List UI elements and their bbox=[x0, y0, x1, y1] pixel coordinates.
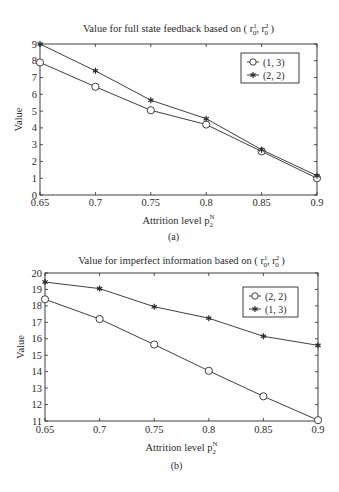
legend-entry: (2, 2) bbox=[263, 70, 285, 82]
legend-entry: (1, 3) bbox=[263, 57, 285, 69]
x-axis-label: Attrition level pN2 bbox=[142, 213, 214, 229]
x-tick-label: 0.75 bbox=[145, 424, 163, 435]
y-tick-label: 7 bbox=[32, 72, 37, 83]
circle-marker-icon bbox=[147, 107, 154, 114]
y-tick-label: 19 bbox=[32, 284, 43, 295]
legend-entry: (1, 3) bbox=[265, 304, 287, 316]
y-tick-label: 3 bbox=[32, 139, 37, 150]
x-tick-label: 0.85 bbox=[252, 197, 270, 208]
circle-marker-icon bbox=[314, 417, 321, 424]
panel-label: (a) bbox=[168, 231, 179, 243]
star-marker-icon bbox=[148, 97, 153, 103]
y-tick-label: 16 bbox=[32, 333, 43, 344]
circle-marker-icon bbox=[36, 59, 43, 66]
y-tick-label: 11 bbox=[32, 416, 42, 427]
legend: (1, 3)(2, 2) bbox=[241, 53, 299, 83]
y-tick-label: 17 bbox=[32, 317, 43, 328]
circle-marker-icon bbox=[205, 367, 212, 374]
circle-marker-icon bbox=[41, 296, 48, 303]
x-tick-label: 0.7 bbox=[93, 424, 106, 435]
chart-panel-a: Value for full state feedback based on (… bbox=[13, 22, 324, 243]
star-marker-icon bbox=[93, 68, 98, 74]
circle-marker-icon bbox=[96, 315, 103, 322]
y-tick-label: 15 bbox=[32, 350, 43, 361]
x-tick-label: 0.8 bbox=[200, 197, 213, 208]
x-tick-label: 0.7 bbox=[89, 197, 102, 208]
x-axis-label: Attrition level pN2 bbox=[145, 440, 217, 456]
legend: (2, 2)(1, 3) bbox=[243, 287, 298, 317]
y-tick-label: 20 bbox=[32, 268, 43, 279]
x-tick-label: 0.85 bbox=[254, 424, 272, 435]
circle-marker-icon bbox=[92, 83, 99, 90]
y-axis-label: Value bbox=[13, 107, 24, 131]
x-tick-label: 0.8 bbox=[202, 424, 215, 435]
panel-label: (b) bbox=[171, 460, 183, 472]
chart-title: Value for imperfect information based on… bbox=[78, 254, 285, 269]
y-tick-label: 1 bbox=[32, 173, 37, 184]
circle-marker-icon bbox=[260, 393, 267, 400]
y-tick-label: 13 bbox=[32, 383, 43, 394]
y-tick-label: 18 bbox=[32, 300, 43, 311]
y-tick-label: 12 bbox=[32, 399, 43, 410]
y-tick-label: 14 bbox=[32, 366, 43, 377]
y-tick-label: 4 bbox=[32, 122, 38, 133]
y-tick-label: 2 bbox=[32, 156, 37, 167]
y-tick-label: 8 bbox=[32, 55, 37, 66]
circle-marker-icon bbox=[203, 121, 210, 128]
star-marker-icon bbox=[204, 116, 209, 122]
x-tick-label: 0.9 bbox=[311, 424, 324, 435]
y-tick-label: 9 bbox=[32, 39, 37, 50]
chart-title: Value for full state feedback based on (… bbox=[83, 22, 275, 37]
y-tick-label: 0 bbox=[32, 190, 37, 201]
y-axis-label: Value bbox=[15, 335, 26, 359]
y-tick-label: 6 bbox=[32, 89, 37, 100]
x-tick-label: 0.9 bbox=[310, 197, 323, 208]
y-tick-label: 5 bbox=[32, 106, 37, 117]
figure-canvas: Value for full state feedback based on (… bbox=[0, 0, 339, 492]
circle-marker-icon bbox=[151, 341, 158, 348]
chart-panel-b: Value for imperfect information based on… bbox=[15, 254, 325, 472]
circle-marker-icon bbox=[250, 59, 256, 65]
circle-marker-icon bbox=[252, 293, 258, 299]
x-tick-label: 0.75 bbox=[142, 197, 160, 208]
legend-entry: (2, 2) bbox=[265, 291, 287, 303]
